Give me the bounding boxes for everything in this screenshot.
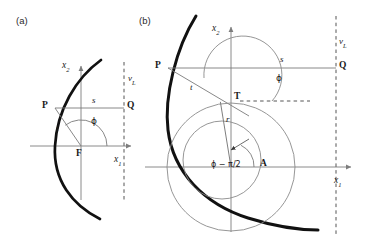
- panel-b-angle-phi-minus-label: ϕ − π/2: [211, 161, 241, 169]
- panel-b-graphics: [0, 0, 351, 236]
- panel-a-point-p-label: P: [42, 101, 48, 111]
- panel-b-directrix-label: vL: [339, 31, 347, 50]
- panel-b-conic-curve: [167, 16, 318, 230]
- panel-b-angle-phi-label: ϕ: [276, 74, 282, 83]
- panel-a-x2-axis-subscript: 2: [66, 66, 69, 73]
- panel-a-directrix-subscript: L: [132, 79, 136, 86]
- panel-b-directrix-subscript: L: [343, 42, 347, 49]
- panel-a-graphics: [30, 60, 131, 219]
- panel-b-x2-axis-label: x2: [212, 18, 219, 37]
- panel-a-directrix-label: vL: [128, 68, 136, 87]
- panel-b-point-q-label: Q: [339, 61, 346, 71]
- panel-b-x1-axis-subscript: 1: [338, 181, 341, 188]
- panel-b-angle-phi-arc: [204, 36, 282, 101]
- panel-b-point-p-label: P: [155, 61, 161, 71]
- panel-a-x2-axis-label: x2: [62, 55, 69, 74]
- panel-b-segment-r-label: r: [226, 115, 230, 124]
- panel-b-angle-phi-minus-arc: [241, 145, 254, 167]
- figure-container: (a) x2 x1 vL P Q F s t ϕ (b) x2 x1 vL P …: [0, 0, 374, 247]
- panel-b-tag: (b): [139, 16, 151, 26]
- panel-a-x1-axis-label: x1: [114, 149, 121, 168]
- panel-b-point-a-label: A: [260, 159, 267, 169]
- panel-b-segment-t-label: t: [190, 83, 193, 92]
- panel-b-x1-axis-label: x1: [334, 170, 341, 189]
- panel-a-x1-axis-subscript: 1: [118, 160, 121, 167]
- panel-b-point-t-label: T: [234, 92, 240, 102]
- panel-b-segment-s-label: s: [280, 55, 284, 64]
- panel-b-x2-axis-subscript: 2: [216, 29, 219, 36]
- panel-a-tag: (a): [16, 16, 28, 26]
- panel-a-point-q-label: Q: [127, 101, 134, 111]
- panel-a-angle-phi-label: ϕ: [91, 117, 97, 126]
- panel-a-point-f-label: F: [76, 149, 82, 159]
- panel-a-segment-t-label: t: [56, 124, 59, 133]
- panel-a-segment-s-label: s: [92, 96, 96, 105]
- panel-a-conic-curve: [55, 60, 101, 219]
